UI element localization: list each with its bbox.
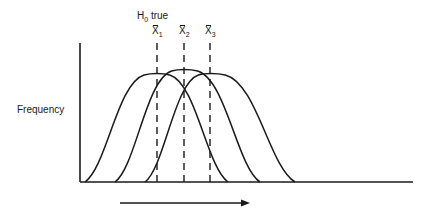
curves: [85, 70, 295, 183]
direction-arrow-icon: [120, 200, 250, 207]
arrow-head: [241, 200, 250, 207]
distribution-2: [115, 70, 260, 183]
mean-lines: [157, 43, 210, 182]
distribution-plot: [0, 0, 436, 215]
axes: [80, 43, 413, 182]
distribution-3: [145, 74, 295, 183]
